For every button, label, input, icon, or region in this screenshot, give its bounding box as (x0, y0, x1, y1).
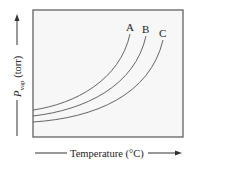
curve-label-b: B (142, 23, 149, 35)
curve-label-c: C (159, 27, 166, 39)
vapor-pressure-chart: A B C Temperature (°C) Pvap (torr) (0, 0, 242, 170)
y-axis-label-unit: (torr) (12, 55, 24, 80)
x-axis-arrow-icon (175, 151, 182, 156)
curve-label-a: A (126, 21, 134, 33)
y-axis-label-sub: vap (18, 80, 26, 91)
y-axis-arrow-icon (15, 14, 20, 21)
x-axis-label: Temperature (°C) (70, 148, 144, 160)
y-axis-label: Pvap (torr) (12, 55, 26, 98)
